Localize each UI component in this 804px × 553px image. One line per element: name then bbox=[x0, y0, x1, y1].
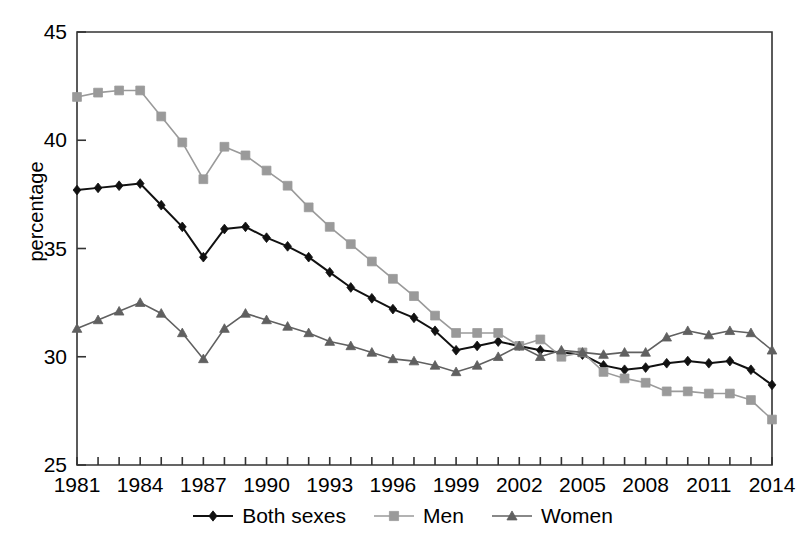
y-tick-label: 25 bbox=[23, 454, 67, 475]
data-point bbox=[389, 274, 398, 283]
square-marker-icon bbox=[372, 506, 416, 526]
x-tick-label: 1981 bbox=[42, 474, 112, 495]
triangle-marker-icon bbox=[490, 506, 534, 526]
data-point bbox=[157, 112, 166, 121]
y-tick-label: 30 bbox=[23, 346, 67, 367]
data-point bbox=[410, 292, 419, 301]
data-point bbox=[73, 185, 81, 195]
x-tick-label: 2011 bbox=[674, 474, 744, 495]
data-point bbox=[705, 358, 713, 368]
data-point bbox=[284, 241, 292, 251]
data-point bbox=[620, 374, 629, 383]
x-tick-label: 1999 bbox=[421, 474, 491, 495]
data-point bbox=[683, 387, 692, 396]
data-point bbox=[135, 298, 145, 307]
data-point bbox=[725, 326, 735, 335]
data-point bbox=[452, 329, 461, 338]
data-point bbox=[368, 293, 376, 303]
x-tick-label: 2014 bbox=[737, 474, 804, 495]
data-point bbox=[662, 387, 671, 396]
legend-label: Men bbox=[423, 505, 464, 526]
data-point bbox=[115, 181, 123, 191]
data-point bbox=[94, 88, 103, 97]
data-point bbox=[136, 86, 145, 95]
data-point bbox=[599, 368, 608, 377]
data-point bbox=[304, 203, 313, 212]
data-point bbox=[389, 304, 397, 314]
data-point bbox=[367, 257, 376, 266]
data-point bbox=[283, 181, 292, 190]
legend-item-men: Men bbox=[372, 505, 464, 526]
data-point bbox=[262, 166, 271, 175]
series-both-sexes bbox=[73, 179, 776, 390]
y-tick-label: 45 bbox=[23, 21, 67, 42]
y-tick-label: 35 bbox=[23, 238, 67, 259]
data-point bbox=[493, 352, 503, 361]
data-point bbox=[683, 326, 693, 335]
data-point bbox=[557, 345, 567, 354]
y-tick-label: 40 bbox=[23, 129, 67, 150]
x-tick-label: 1993 bbox=[295, 474, 365, 495]
data-point bbox=[704, 389, 713, 398]
data-point bbox=[536, 335, 545, 344]
data-point bbox=[684, 356, 692, 366]
data-point bbox=[263, 233, 271, 243]
plot-frame bbox=[77, 32, 772, 465]
legend-label: Both sexes bbox=[242, 505, 346, 526]
data-point bbox=[494, 329, 503, 338]
x-tick-label: 1984 bbox=[105, 474, 175, 495]
series-line bbox=[77, 184, 772, 385]
data-point bbox=[410, 313, 418, 323]
data-point bbox=[242, 222, 250, 232]
data-point bbox=[768, 415, 777, 424]
data-point bbox=[241, 151, 250, 160]
data-point bbox=[94, 183, 102, 193]
diamond-marker-icon bbox=[191, 506, 235, 526]
x-tick-label: 1990 bbox=[232, 474, 302, 495]
legend-item-both-sexes: Both sexes bbox=[191, 505, 346, 526]
data-point bbox=[663, 358, 671, 368]
data-point bbox=[473, 341, 481, 351]
series-women bbox=[72, 298, 777, 376]
data-point bbox=[73, 93, 82, 102]
data-point bbox=[305, 252, 313, 262]
plot-area bbox=[0, 0, 804, 553]
data-point bbox=[726, 356, 734, 366]
x-tick-label: 2008 bbox=[611, 474, 681, 495]
legend-label: Women bbox=[541, 505, 613, 526]
data-point bbox=[220, 324, 230, 333]
data-point bbox=[325, 222, 334, 231]
data-point bbox=[725, 389, 734, 398]
data-point bbox=[747, 396, 756, 405]
data-point bbox=[621, 365, 629, 375]
data-point bbox=[178, 138, 187, 147]
data-point bbox=[156, 309, 166, 318]
data-point bbox=[473, 329, 482, 338]
data-point bbox=[326, 267, 334, 277]
data-point bbox=[747, 365, 755, 375]
data-point bbox=[347, 283, 355, 293]
line-chart: percentage 4540353025 198119841987199019… bbox=[0, 0, 804, 553]
series-men bbox=[73, 86, 777, 424]
data-point bbox=[220, 142, 229, 151]
data-point bbox=[642, 363, 650, 373]
x-tick-label: 2002 bbox=[484, 474, 554, 495]
chart-legend: Both sexesMenWomen bbox=[0, 505, 804, 526]
x-tick-label: 2005 bbox=[547, 474, 617, 495]
y-axis-label: percentage bbox=[25, 132, 48, 292]
data-point bbox=[768, 380, 776, 390]
data-point bbox=[641, 378, 650, 387]
data-point bbox=[346, 240, 355, 249]
data-point bbox=[199, 175, 208, 184]
legend-item-women: Women bbox=[490, 505, 613, 526]
x-tick-label: 1987 bbox=[168, 474, 238, 495]
data-point bbox=[431, 311, 440, 320]
data-point bbox=[241, 309, 251, 318]
data-point bbox=[115, 86, 124, 95]
x-tick-label: 1996 bbox=[358, 474, 428, 495]
data-point bbox=[494, 337, 502, 347]
